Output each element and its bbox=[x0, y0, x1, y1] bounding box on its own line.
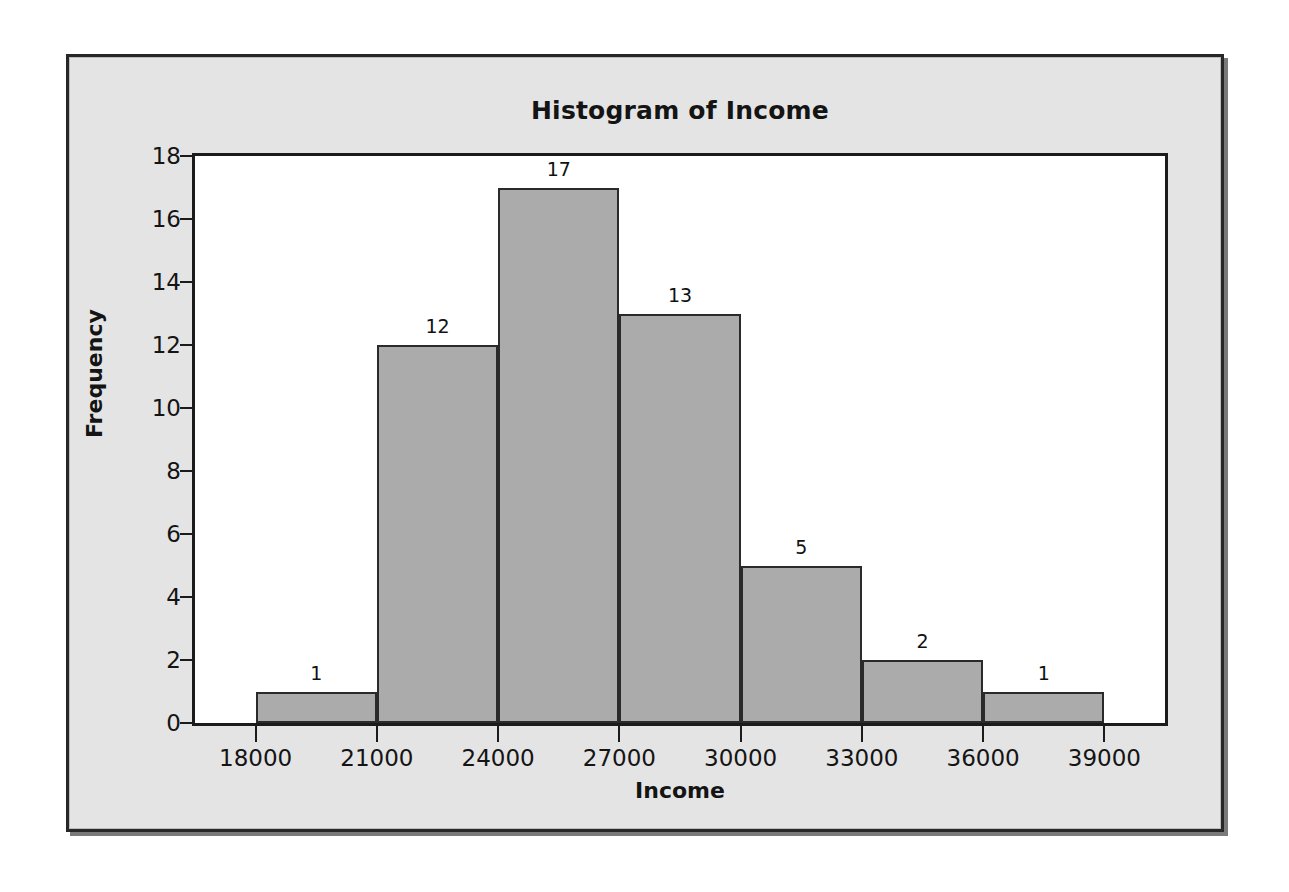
y-axis-tick-label: 14 bbox=[111, 269, 181, 295]
y-axis-title: Frequency bbox=[82, 309, 107, 438]
bar-value-label: 2 bbox=[916, 630, 928, 652]
x-axis-tick-label: 33000 bbox=[825, 745, 898, 771]
y-axis-tick-label: 16 bbox=[111, 206, 181, 232]
y-axis-tick bbox=[180, 281, 192, 283]
x-axis-tick bbox=[255, 726, 257, 742]
y-axis-tick bbox=[180, 218, 192, 220]
bar-value-label: 1 bbox=[310, 662, 322, 684]
bar-value-label: 1 bbox=[1038, 662, 1050, 684]
bar-value-label: 13 bbox=[668, 284, 692, 306]
y-axis-tick-label: 8 bbox=[111, 458, 181, 484]
y-axis-tick bbox=[180, 155, 192, 157]
bars-container: 1121713521 bbox=[195, 156, 1165, 723]
y-axis-tick bbox=[180, 470, 192, 472]
y-axis-tick-label: 6 bbox=[111, 521, 181, 547]
x-axis-tick-label: 30000 bbox=[704, 745, 777, 771]
y-axis-tick bbox=[180, 533, 192, 535]
histogram-bar bbox=[256, 692, 377, 724]
x-axis-tick bbox=[861, 726, 863, 742]
x-axis-tick-label: 36000 bbox=[947, 745, 1020, 771]
y-axis-tick-label: 2 bbox=[111, 647, 181, 673]
y-axis-tick-label: 18 bbox=[111, 143, 181, 169]
y-axis-tick-label: 4 bbox=[111, 584, 181, 610]
y-axis-tick-label: 12 bbox=[111, 332, 181, 358]
histogram-bar bbox=[862, 660, 983, 723]
y-axis-tick bbox=[180, 344, 192, 346]
y-axis-tick bbox=[180, 659, 192, 661]
x-axis-tick-label: 24000 bbox=[462, 745, 535, 771]
x-axis-tick bbox=[982, 726, 984, 742]
bar-value-label: 5 bbox=[795, 536, 807, 558]
histogram-bar bbox=[377, 345, 498, 723]
x-axis-tick-label: 39000 bbox=[1068, 745, 1141, 771]
y-axis-tick-label: 0 bbox=[111, 710, 181, 736]
x-axis-tick bbox=[497, 726, 499, 742]
page-title: Histogram of Income bbox=[192, 96, 1168, 125]
x-axis-tick bbox=[376, 726, 378, 742]
histogram-bar bbox=[741, 566, 862, 724]
histogram-bar bbox=[619, 314, 740, 724]
x-axis-tick-label: 21000 bbox=[340, 745, 413, 771]
histogram-bar bbox=[498, 188, 619, 724]
x-axis-title: Income bbox=[192, 778, 1168, 803]
histogram-screenshot: Histogram of Income 1121713521 024681012… bbox=[0, 0, 1289, 892]
x-axis-tick bbox=[1103, 726, 1105, 742]
x-axis-line bbox=[192, 723, 1168, 726]
histogram-bar bbox=[983, 692, 1104, 724]
x-axis-tick-label: 27000 bbox=[583, 745, 656, 771]
y-axis-tick bbox=[180, 596, 192, 598]
bar-value-label: 17 bbox=[547, 158, 571, 180]
bar-value-label: 12 bbox=[425, 315, 449, 337]
y-axis-tick bbox=[180, 407, 192, 409]
x-axis-tick bbox=[618, 726, 620, 742]
y-axis-tick-label: 10 bbox=[111, 395, 181, 421]
x-axis-tick-label: 18000 bbox=[219, 745, 292, 771]
y-axis-tick bbox=[180, 722, 192, 724]
x-axis-tick bbox=[740, 726, 742, 742]
